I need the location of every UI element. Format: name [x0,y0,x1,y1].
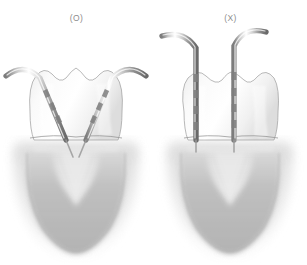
tooth-root-radiograph [168,142,292,262]
panel-incorrect: (X) [154,0,307,265]
tooth-root-radiograph [14,142,138,262]
periodontal-probing-figure: (O) [0,0,307,265]
panel-incorrect-artwork [154,0,307,265]
panel-correct-artwork [0,0,153,265]
panel-correct: (O) [0,0,153,265]
